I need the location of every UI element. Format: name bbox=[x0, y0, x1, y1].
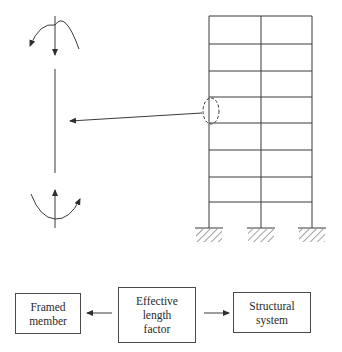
fixed-supports bbox=[195, 228, 326, 242]
structural-system-box: Structural system bbox=[233, 292, 311, 333]
box-label-line: Effective bbox=[136, 294, 178, 308]
isolated-column bbox=[30, 16, 80, 228]
pointer-arrow bbox=[70, 113, 202, 121]
fixed-support-middle bbox=[247, 228, 275, 242]
multistory-frame bbox=[209, 16, 312, 228]
box-label-line: factor bbox=[136, 322, 178, 336]
effective-length-factor-box: Effective length factor bbox=[118, 287, 196, 343]
box-label-line: member bbox=[29, 314, 67, 328]
framed-member-box: Framed member bbox=[15, 293, 81, 334]
highlight-ellipse bbox=[203, 98, 219, 124]
box-label-line: Framed bbox=[29, 300, 67, 314]
box-label-line: length bbox=[136, 308, 178, 322]
box-label-line: system bbox=[249, 313, 294, 327]
fixed-support-left bbox=[195, 228, 223, 242]
fixed-support-right bbox=[298, 228, 326, 242]
box-label-line: Structural bbox=[249, 299, 294, 313]
